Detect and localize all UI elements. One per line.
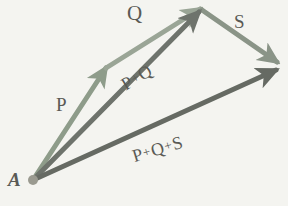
- origin-point-marker: [28, 175, 38, 185]
- label-vector-s: S: [234, 12, 245, 31]
- label-vector-q: Q: [127, 3, 142, 24]
- label-origin-a: A: [8, 170, 21, 189]
- vector-addition-diagram: A P Q S P+Q P+Q+S: [0, 0, 288, 206]
- label-vector-p: P: [56, 95, 67, 114]
- vector-canvas: [0, 0, 288, 206]
